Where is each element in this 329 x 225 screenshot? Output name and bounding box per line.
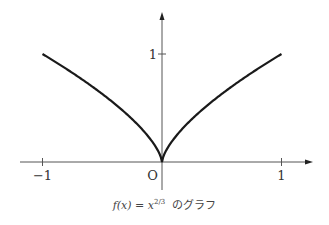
x-tick-label: −1	[33, 168, 52, 183]
caption-suffix: のグラフ	[172, 199, 216, 212]
y-tick-label: 1	[149, 47, 157, 62]
figure-caption: f(x) = x2/3 のグラフ	[0, 196, 329, 212]
axes	[20, 12, 313, 190]
x-axis-arrow	[305, 160, 313, 165]
ticks: −111O	[33, 47, 286, 183]
origin-label: O	[147, 168, 158, 183]
y-axis-arrow	[160, 12, 165, 20]
x-tick-label: 1	[277, 168, 285, 183]
function-plot: −111O	[0, 0, 329, 225]
caption-exponent: 2/3	[154, 198, 165, 206]
caption-lhs: f(x) = x	[113, 199, 154, 212]
